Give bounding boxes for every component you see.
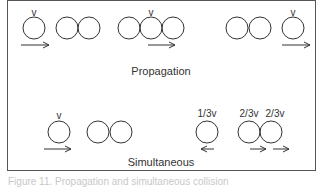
- ball: [140, 17, 162, 39]
- ball: [238, 121, 260, 143]
- propagation-row: [21, 17, 310, 45]
- velocity-label: v: [291, 7, 296, 18]
- velocity-label: 2/3v: [266, 108, 285, 119]
- section-title-propagation: Propagation: [131, 65, 190, 77]
- section-title-simultaneous: Simultaneous: [128, 156, 195, 168]
- ball: [78, 17, 100, 39]
- velocity-label: 1/3v: [198, 108, 217, 119]
- ball: [110, 121, 132, 143]
- ball: [162, 17, 184, 39]
- velocity-label: v: [57, 110, 62, 121]
- velocity-label: v: [149, 7, 154, 18]
- ball: [56, 17, 78, 39]
- velocity-label: 2/3v: [240, 108, 259, 119]
- ball: [23, 17, 45, 39]
- ball: [282, 17, 304, 39]
- ball: [87, 121, 109, 143]
- collision-diagram: v v v Propagation v 1/3v 2/3v 2/3v Simul…: [0, 0, 322, 187]
- velocity-label: v: [32, 7, 37, 18]
- ball: [118, 17, 140, 39]
- ball: [196, 121, 218, 143]
- figure-caption: Figure 11. Propagation and simultaneous …: [8, 176, 229, 187]
- ball: [226, 17, 248, 39]
- ball: [48, 121, 70, 143]
- ball: [249, 17, 271, 39]
- simultaneous-row: [44, 121, 289, 149]
- ball: [260, 121, 282, 143]
